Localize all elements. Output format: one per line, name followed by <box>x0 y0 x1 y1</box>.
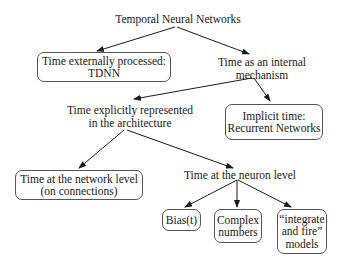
node-network-level-line2: (on connections) <box>20 185 138 198</box>
node-bias-line: Bias(t) <box>166 214 197 227</box>
edge-explicit-neuron <box>127 130 233 168</box>
node-root-line: Temporal Neural Networks <box>115 13 241 25</box>
edge-root-external <box>97 27 175 51</box>
node-integrate-line1: “integrate <box>279 213 324 226</box>
node-external-line2: TDNN <box>42 67 166 80</box>
node-internal-line1: Time as an internal <box>200 56 324 69</box>
node-internal: Time as an internal mechanism <box>200 56 324 81</box>
edge-neuron-integrate <box>238 180 291 207</box>
node-complex-line2: numbers <box>217 226 259 239</box>
node-bias: Bias(t) <box>162 209 201 231</box>
node-implicit: Implicit time: Recurrent Networks <box>225 104 323 140</box>
edge-root-internal <box>177 27 249 54</box>
node-explicit-line2: in the architecture <box>60 117 200 130</box>
edge-neuron-bias <box>185 180 237 207</box>
node-external: Time externally processed: TDNN <box>37 52 171 82</box>
node-neuron-level-line: Time at the neuron level <box>184 169 296 181</box>
node-external-line1: Time externally processed: <box>42 55 166 68</box>
node-explicit: Time explicitly represented in the archi… <box>60 104 200 129</box>
node-root: Temporal Neural Networks <box>108 13 248 26</box>
node-internal-line2: mechanism <box>200 69 324 82</box>
node-neuron-level: Time at the neuron level <box>180 169 300 182</box>
node-implicit-line1: Implicit time: <box>228 110 321 123</box>
node-network-level-line1: Time at the network level <box>20 173 138 186</box>
node-complex: Complex numbers <box>214 209 262 243</box>
node-integrate-line3: models <box>279 238 324 251</box>
node-complex-line1: Complex <box>217 214 259 227</box>
node-integrate: “integrate and fire” models <box>277 209 327 254</box>
node-integrate-line2: and fire” <box>279 225 324 238</box>
node-implicit-line2: Recurrent Networks <box>228 122 321 135</box>
node-explicit-line1: Time explicitly represented <box>60 104 200 117</box>
edge-explicit-network <box>79 130 124 168</box>
edge-internal-implicit <box>254 78 270 101</box>
node-network-level: Time at the network level (on connection… <box>15 170 143 200</box>
